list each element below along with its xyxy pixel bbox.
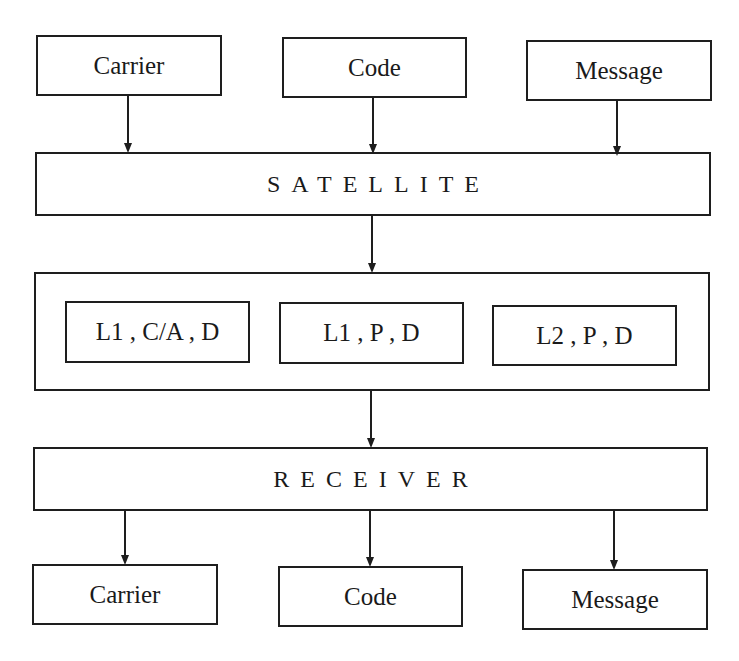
output-label-message: Message [571,586,658,614]
signal-box-l1-ca-d: L1 , C/A , D [65,301,250,363]
satellite-label: SATELLITE [256,171,490,198]
output-label-carrier: Carrier [90,581,161,609]
output-label-code: Code [344,583,397,611]
input-box-message: Message [526,40,712,101]
signal-label-l2-p-d: L2 , P , D [536,322,632,350]
input-box-code: Code [282,37,467,98]
input-box-carrier: Carrier [36,35,222,96]
output-box-carrier: Carrier [32,564,218,625]
signal-label-l1-ca-d: L1 , C/A , D [96,318,220,346]
signal-box-l2-p-d: L2 , P , D [492,305,677,366]
input-label-code: Code [348,54,401,82]
receiver-label: RECEIVER [262,466,478,493]
output-box-code: Code [278,566,463,627]
gps-signal-flow-diagram: Carrier Code Message SATELLITE L1 , C/A … [0,0,739,661]
input-label-carrier: Carrier [94,52,165,80]
signal-label-l1-p-d: L1 , P , D [323,319,419,347]
input-label-message: Message [575,57,662,85]
output-box-message: Message [522,569,708,630]
signal-box-l1-p-d: L1 , P , D [279,302,464,364]
receiver-box: RECEIVER [33,447,708,511]
satellite-box: SATELLITE [35,152,711,216]
